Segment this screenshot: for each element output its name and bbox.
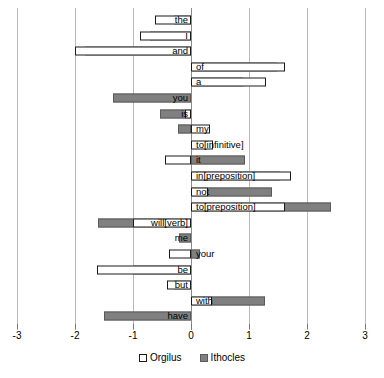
x-tick-label-0: 0 [188, 330, 194, 341]
legend-swatch-icon [139, 354, 147, 362]
x-tick-label-1: 1 [246, 330, 252, 341]
legend-label: Orgilus [150, 352, 182, 363]
legend-item-orgilus[interactable]: Orgilus [139, 352, 182, 363]
chart-legend: OrgilusIthocles [0, 352, 384, 363]
bar-orgilus [191, 62, 285, 71]
x-axis-ticks: -3-2-10123 [0, 330, 384, 346]
bar-ithocles [178, 125, 191, 134]
bar-orgilus [191, 78, 266, 87]
bar-orgilus [169, 250, 191, 259]
x-tick-label-2: 2 [304, 330, 310, 341]
plot-area: theIandofayouismyto[infinitive]itin[prep… [0, 0, 384, 330]
tick-mark [133, 324, 134, 329]
bar-row: have [0, 307, 384, 325]
category-label: have [167, 307, 188, 325]
tick-mark [75, 324, 76, 329]
legend-swatch-icon [200, 354, 208, 362]
bar-chart: theIandofayouismyto[infinitive]itin[prep… [0, 0, 384, 378]
bar-orgilus [140, 31, 191, 40]
x-tick-label--2: -2 [71, 330, 80, 341]
legend-label: Ithocles [211, 352, 245, 363]
x-tick-label-3: 3 [362, 330, 368, 341]
legend-item-ithocles[interactable]: Ithocles [200, 352, 245, 363]
tick-mark [307, 324, 308, 329]
x-tick-label--1: -1 [129, 330, 138, 341]
tick-mark [191, 324, 192, 329]
bar-orgilus [165, 156, 191, 165]
tick-mark [249, 324, 250, 329]
x-tick-label--3: -3 [13, 330, 22, 341]
tick-mark [365, 324, 366, 329]
tick-mark [17, 324, 18, 329]
